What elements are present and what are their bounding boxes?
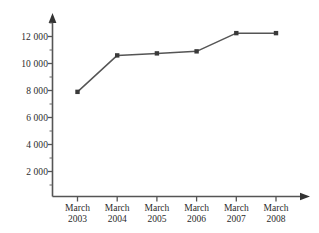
x-tick-month: March	[252, 203, 300, 214]
y-tick-label-2000: 2 000	[2, 167, 48, 177]
data-point-march-2008	[274, 31, 278, 35]
arrow-up-icon	[49, 13, 57, 23]
data-series-line	[78, 33, 277, 92]
data-point-march-2007	[234, 31, 238, 35]
arrow-right-icon	[300, 193, 310, 200]
line-chart: 12 000 10 000 8 000 6 000 4 000 2 000 Ma…	[0, 0, 319, 233]
y-tick-label-12000: 12 000	[2, 32, 48, 42]
data-point-march-2006	[194, 49, 198, 53]
data-point-march-2005	[155, 51, 159, 55]
x-tick-label-2008: March2008	[252, 203, 300, 225]
y-axis-labels: 12 000 10 000 8 000 6 000 4 000 2 000	[0, 0, 48, 233]
y-tick-label-8000: 8 000	[2, 86, 48, 96]
y-tick-label-4000: 4 000	[2, 140, 48, 150]
y-tick-label-10000: 10 000	[2, 59, 48, 69]
x-tick-year: 2008	[252, 214, 300, 225]
y-tick-label-6000: 6 000	[2, 113, 48, 123]
data-point-march-2003	[75, 90, 79, 94]
data-point-march-2004	[115, 53, 119, 57]
data-point-markers	[75, 31, 278, 94]
